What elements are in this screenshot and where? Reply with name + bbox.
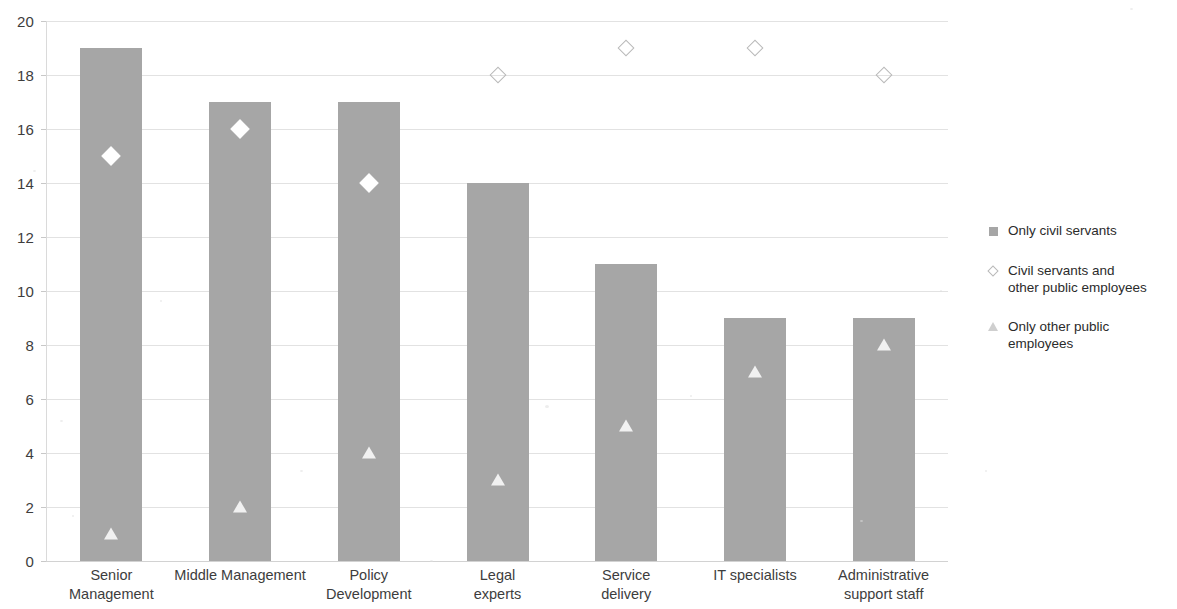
y-axis-tick — [41, 561, 46, 562]
plot-area — [47, 0, 948, 609]
y-axis-tick-label: 8 — [25, 337, 34, 354]
diamond-marker[interactable] — [746, 40, 763, 57]
scan-artifact — [985, 470, 987, 472]
triangle-marker[interactable] — [877, 338, 891, 350]
x-axis-tick-label: SeniorManagement — [69, 566, 154, 604]
x-axis-tick-label: Middle Management — [174, 566, 305, 585]
y-axis-tick-label: 6 — [25, 391, 34, 408]
plot-container: 02468101214161820 SeniorManagementMiddle… — [0, 0, 960, 609]
y-axis-tick-labels: 02468101214161820 — [0, 0, 42, 609]
x-axis-tick-label: Legalexperts — [474, 566, 522, 604]
triangle-marker[interactable] — [233, 500, 247, 512]
triangle-marker[interactable] — [362, 446, 376, 458]
y-axis-tick — [41, 453, 46, 454]
x-axis-tick-label: IT specialists — [713, 566, 797, 585]
bar[interactable] — [338, 102, 400, 561]
diamond-outline-icon — [988, 262, 1002, 280]
square-icon — [988, 222, 1002, 240]
y-axis-tick — [41, 399, 46, 400]
triangle-marker[interactable] — [619, 419, 633, 431]
bar[interactable] — [209, 102, 271, 561]
legend-item-label: Only civil servants — [1008, 222, 1117, 239]
bar[interactable] — [724, 318, 786, 561]
legend-item-label: Civil servants and other public employee… — [1008, 262, 1147, 296]
y-axis-tick — [41, 291, 46, 292]
legend-item[interactable]: Only civil servants — [988, 222, 1177, 240]
y-axis-tick — [41, 507, 46, 508]
diamond-marker[interactable] — [489, 67, 506, 84]
y-axis-tick — [41, 183, 46, 184]
x-axis-tick-label: Servicedelivery — [601, 566, 651, 604]
y-axis-tick-label: 12 — [17, 229, 34, 246]
diamond-marker[interactable] — [875, 67, 892, 84]
square-icon-glyph — [989, 227, 998, 236]
chart-legend: Only civil servantsCivil servants and ot… — [988, 222, 1177, 374]
bar[interactable] — [467, 183, 529, 561]
y-axis-tick — [41, 129, 46, 130]
scan-artifact — [33, 170, 36, 172]
y-axis-tick-label: 2 — [25, 499, 34, 516]
y-axis-tick-label: 20 — [17, 13, 34, 30]
scan-artifact — [860, 520, 863, 522]
triangle-marker[interactable] — [748, 365, 762, 377]
y-axis-tick-label: 10 — [17, 283, 34, 300]
x-axis-tick-label: Administrativesupport staff — [838, 566, 929, 604]
chart-figure: 02468101214161820 SeniorManagementMiddle… — [0, 0, 1177, 609]
legend-item-label: Only other public employees — [1008, 318, 1177, 352]
x-axis-tick-labels: SeniorManagementMiddle ManagementPolicyD… — [47, 566, 948, 609]
x-axis-tick-label: PolicyDevelopment — [326, 566, 411, 604]
scan-artifact — [430, 560, 433, 562]
y-axis-tick-label: 14 — [17, 175, 34, 192]
triangle-icon — [988, 318, 1002, 336]
bar[interactable] — [595, 264, 657, 561]
legend-item[interactable]: Civil servants and other public employee… — [988, 262, 1177, 296]
y-axis-tick-label: 16 — [17, 121, 34, 138]
legend-item[interactable]: Only other public employees — [988, 318, 1177, 352]
triangle-marker[interactable] — [491, 473, 505, 485]
diamond-marker[interactable] — [618, 40, 635, 57]
y-axis-tick — [41, 21, 46, 22]
y-axis-tick — [41, 237, 46, 238]
y-axis-tick — [41, 75, 46, 76]
scan-artifact — [690, 395, 692, 397]
triangle-marker[interactable] — [104, 527, 118, 539]
diamond-outline-icon-glyph — [987, 265, 998, 276]
bar[interactable] — [853, 318, 915, 561]
scan-artifact — [160, 300, 162, 302]
y-axis-tick-label: 4 — [25, 445, 34, 462]
y-axis-tick-label: 0 — [25, 553, 34, 570]
scan-artifact — [1130, 8, 1133, 10]
scan-artifact — [545, 405, 549, 408]
y-axis-tick-label: 18 — [17, 67, 34, 84]
scan-artifact — [940, 290, 942, 292]
bar[interactable] — [80, 48, 142, 561]
scan-artifact — [72, 515, 74, 517]
scan-artifact — [60, 420, 63, 422]
triangle-icon-glyph — [988, 322, 998, 331]
scan-artifact — [300, 470, 303, 472]
y-axis-tick — [41, 345, 46, 346]
